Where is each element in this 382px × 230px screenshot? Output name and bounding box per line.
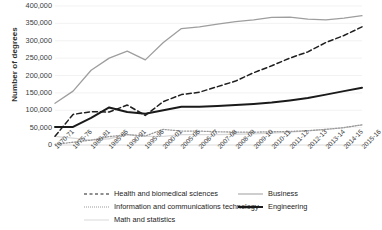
y-axis-tick-label: 250,000	[8, 54, 52, 61]
y-axis-tick-label: 100,000	[8, 106, 52, 113]
chart-legend: Health and biomedical sciencesInformatio…	[0, 189, 370, 230]
legend-swatch-icon	[84, 215, 109, 224]
plot-area	[55, 6, 362, 145]
data-series-group	[55, 16, 362, 145]
legend-item-label: Health and biomedical sciences	[114, 189, 218, 198]
legend-item[interactable]: Engineering	[238, 202, 307, 211]
series-line	[55, 88, 362, 127]
legend-item-label: Math and statistics	[114, 215, 175, 224]
series-line	[55, 27, 362, 136]
legend-swatch-icon	[238, 189, 263, 198]
legend-swatch-icon	[84, 189, 109, 198]
plot-svg	[55, 6, 362, 145]
x-axis-tick-labels: 1970-711975-761980-811985-861990-911995-…	[0, 145, 370, 190]
y-axis-tick-labels: 400,000350,000300,000250,000200,000150,0…	[4, 0, 52, 151]
legend-item[interactable]: Math and statistics	[84, 215, 175, 224]
legend-item-label: Business	[268, 189, 298, 198]
gridlines	[55, 6, 362, 145]
legend-item[interactable]: Health and biomedical sciences	[84, 189, 218, 198]
y-axis-tick-label: 150,000	[8, 89, 52, 96]
legend-item[interactable]: Information and communications technolog…	[84, 202, 259, 211]
legend-swatch-icon	[84, 202, 109, 211]
y-axis-tick-label: 50,000	[8, 124, 52, 131]
y-axis-tick-label: 200,000	[8, 72, 52, 79]
y-axis-tick-label: 350,000	[8, 19, 52, 26]
y-axis-tick-label: 300,000	[8, 37, 52, 44]
legend-item-label: Information and communications technolog…	[114, 202, 259, 211]
legend-item-label: Engineering	[268, 202, 307, 211]
y-axis-tick-label: 400,000	[8, 2, 52, 9]
series-line	[55, 16, 362, 104]
legend-swatch-icon	[238, 202, 263, 211]
legend-item[interactable]: Business	[238, 189, 298, 198]
